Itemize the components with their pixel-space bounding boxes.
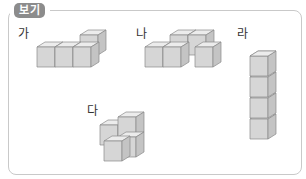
figure-ga-cubes bbox=[37, 30, 106, 67]
figure-ra-cubes bbox=[250, 51, 276, 139]
cube-figures bbox=[0, 0, 306, 179]
figure-na-cubes bbox=[145, 30, 221, 67]
figure-da-cubes bbox=[100, 112, 144, 161]
